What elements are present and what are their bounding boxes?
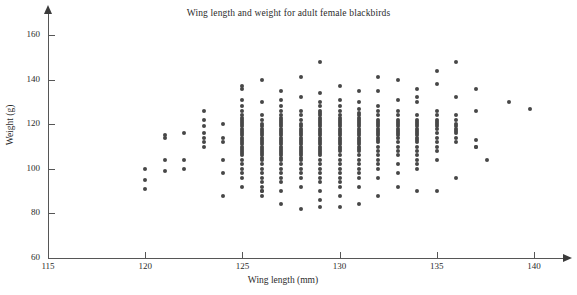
scatter-point xyxy=(221,194,225,198)
scatter-point xyxy=(279,180,283,184)
scatter-point xyxy=(357,158,361,162)
scatter-point xyxy=(338,149,342,153)
x-axis-label: Wing length (mm) xyxy=(48,275,518,285)
scatter-point xyxy=(454,176,458,180)
scatter-point xyxy=(415,162,419,166)
x-tick-label: 120 xyxy=(125,261,165,271)
scatter-point xyxy=(240,167,244,171)
x-tick-label: 140 xyxy=(514,261,554,271)
scatter-point xyxy=(240,87,244,91)
scatter-point xyxy=(415,167,419,171)
scatter-point xyxy=(338,194,342,198)
scatter-point xyxy=(299,185,303,189)
scatter-point xyxy=(528,107,532,111)
scatter-point xyxy=(454,131,458,135)
scatter-point xyxy=(260,194,264,198)
chart-figure: Wing length and weight for adult female … xyxy=(0,0,577,295)
scatter-point xyxy=(376,194,380,198)
scatter-point xyxy=(260,162,264,166)
scatter-point xyxy=(435,136,439,140)
scatter-point xyxy=(279,176,283,180)
scatter-point xyxy=(357,202,361,206)
scatter-point xyxy=(415,113,419,117)
scatter-point xyxy=(221,122,225,126)
scatter-point xyxy=(376,158,380,162)
scatter-point xyxy=(202,131,206,135)
scatter-point xyxy=(415,149,419,153)
scatter-point xyxy=(202,118,206,122)
scatter-point xyxy=(338,176,342,180)
scatter-point xyxy=(415,158,419,162)
scatter-point xyxy=(435,82,439,86)
scatter-point xyxy=(415,153,419,157)
scatter-point xyxy=(318,153,322,157)
y-tick-label: 160 xyxy=(2,29,40,39)
scatter-point xyxy=(260,100,264,104)
scatter-point xyxy=(357,149,361,153)
scatter-point xyxy=(357,100,361,104)
scatter-point xyxy=(279,189,283,193)
scatter-point xyxy=(435,69,439,73)
scatter-point xyxy=(318,180,322,184)
scatter-point xyxy=(182,167,186,171)
scatter-point xyxy=(279,167,283,171)
scatter-plot-area xyxy=(48,13,565,258)
scatter-point xyxy=(338,109,342,113)
scatter-point xyxy=(260,180,264,184)
scatter-point xyxy=(318,167,322,171)
scatter-point xyxy=(318,176,322,180)
scatter-point xyxy=(357,176,361,180)
scatter-point xyxy=(376,145,380,149)
scatter-point xyxy=(163,169,167,173)
scatter-point xyxy=(376,167,380,171)
scatter-point xyxy=(376,162,380,166)
scatter-point xyxy=(260,171,264,175)
scatter-point xyxy=(318,60,322,64)
scatter-point xyxy=(163,158,167,162)
scatter-point xyxy=(396,162,400,166)
scatter-point xyxy=(260,118,264,122)
scatter-point xyxy=(474,87,478,91)
scatter-point xyxy=(202,124,206,128)
x-axis-line xyxy=(48,258,566,259)
scatter-point xyxy=(454,118,458,122)
x-tick-label: 130 xyxy=(320,261,360,271)
scatter-point xyxy=(318,162,322,166)
scatter-point xyxy=(240,153,244,157)
scatter-point xyxy=(357,162,361,166)
scatter-point xyxy=(240,185,244,189)
scatter-point xyxy=(279,162,283,166)
scatter-point xyxy=(338,104,342,108)
scatter-point xyxy=(279,171,283,175)
scatter-point xyxy=(163,136,167,140)
scatter-point xyxy=(415,95,419,99)
scatter-point xyxy=(338,84,342,88)
scatter-point xyxy=(202,145,206,149)
scatter-point xyxy=(279,89,283,93)
scatter-point xyxy=(143,178,147,182)
scatter-point xyxy=(396,149,400,153)
scatter-point xyxy=(435,127,439,131)
scatter-point xyxy=(318,91,322,95)
scatter-point xyxy=(396,113,400,117)
scatter-point xyxy=(299,118,303,122)
x-tick-label: 135 xyxy=(417,261,457,271)
scatter-point xyxy=(338,153,342,157)
scatter-point xyxy=(240,158,244,162)
scatter-point xyxy=(415,87,419,91)
scatter-point xyxy=(299,171,303,175)
scatter-point xyxy=(338,98,342,102)
scatter-point xyxy=(338,180,342,184)
scatter-point xyxy=(299,95,303,99)
scatter-point xyxy=(474,109,478,113)
scatter-point xyxy=(299,75,303,79)
scatter-point xyxy=(376,104,380,108)
x-tick-label: 125 xyxy=(222,261,262,271)
scatter-point xyxy=(357,153,361,157)
scatter-point xyxy=(299,109,303,113)
scatter-point xyxy=(299,162,303,166)
scatter-point xyxy=(454,113,458,117)
scatter-point xyxy=(435,140,439,144)
scatter-point xyxy=(435,131,439,135)
scatter-point xyxy=(143,187,147,191)
